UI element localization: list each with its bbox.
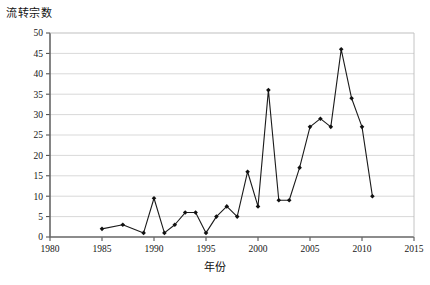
y-tick-label: 30 xyxy=(34,110,44,120)
y-tick-label: 15 xyxy=(34,171,44,181)
data-point-marker xyxy=(277,198,282,203)
series-line-path xyxy=(102,49,372,233)
chart-container: 流转宗数 05101520253035404550198019851990199… xyxy=(0,0,430,285)
data-point-marker xyxy=(245,169,250,174)
y-tick-label: 35 xyxy=(34,90,44,100)
data-point-marker xyxy=(339,47,344,52)
x-tick-label: 2015 xyxy=(405,244,424,254)
x-tick-label: 1985 xyxy=(93,244,112,254)
y-tick-label: 0 xyxy=(38,232,43,242)
data-point-marker xyxy=(297,165,302,170)
y-tick-label: 40 xyxy=(34,69,44,79)
y-tick-label: 10 xyxy=(34,192,44,202)
y-tick-label: 20 xyxy=(34,151,44,161)
x-tick-label: 2010 xyxy=(353,244,372,254)
line-chart-plot: 0510152025303540455019801985199019952000… xyxy=(0,0,430,285)
x-tick-label: 1995 xyxy=(197,244,216,254)
data-point-marker xyxy=(360,125,365,130)
x-axis-title: 年份 xyxy=(0,258,430,274)
data-point-marker xyxy=(100,227,105,232)
x-tick-label: 1980 xyxy=(41,244,60,254)
data-point-marker xyxy=(141,231,146,236)
y-tick-label: 25 xyxy=(34,130,44,140)
y-tick-label: 5 xyxy=(38,212,43,222)
data-point-marker xyxy=(121,222,126,227)
y-axis-title: 流转宗数 xyxy=(6,4,52,20)
x-tick-label: 2005 xyxy=(301,244,320,254)
x-tick-label: 2000 xyxy=(249,244,268,254)
data-point-marker xyxy=(152,196,157,201)
x-tick-label: 1990 xyxy=(145,244,164,254)
data-point-marker xyxy=(256,204,261,209)
y-tick-label: 45 xyxy=(34,49,44,59)
data-point-marker xyxy=(266,88,271,93)
data-point-marker xyxy=(349,96,354,101)
data-point-marker xyxy=(193,210,198,215)
data-point-marker xyxy=(370,194,375,199)
y-tick-label: 50 xyxy=(34,28,44,38)
data-point-marker xyxy=(287,198,292,203)
